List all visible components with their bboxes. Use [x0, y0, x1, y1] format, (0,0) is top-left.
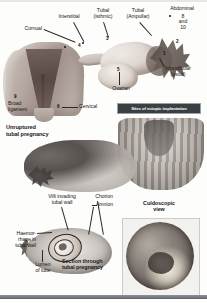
dot-abdominal — [169, 15, 171, 17]
label-villi-invading-tubal-wall: Villi invading tubal wall — [36, 194, 88, 206]
label-abdominal-numbers: 8 and 10 — [172, 14, 194, 30]
label-chorion: Chorion — [88, 194, 120, 200]
leader-ovarian — [119, 72, 120, 85]
dot-interstitial — [82, 42, 84, 44]
label-tubal-isthmic: Tubal (isthmic) — [86, 8, 120, 20]
sites-of-ectopic-implantation-banner: Sites of ectopic implantation — [117, 103, 201, 114]
heading-unruptured-tubal-pregnancy: Unruptured tubal pregnancy — [6, 124, 76, 137]
dot-cornual — [64, 46, 66, 48]
bottom-rule — [0, 295, 207, 299]
label-broad-ligament: Broad ligament — [8, 101, 48, 113]
unruptured-tubal-pregnancy-photo — [24, 140, 136, 192]
top-rule — [0, 0, 207, 2]
label-cornual: Cornual — [4, 26, 42, 32]
label-haemorrhage-tubal-wall: Haemor- rhage in tubal wall — [2, 231, 36, 249]
figure-page: Cornual Interstitial 4 Tubal (isthmic) 3… — [0, 0, 207, 303]
banner-label: Sites of ectopic implantation — [131, 106, 187, 111]
leader-cervical — [62, 107, 78, 108]
label-interstitial: Interstitial — [47, 14, 91, 20]
label-amnion: Amnion — [96, 202, 126, 208]
marker-6: 6 — [57, 105, 60, 110]
leader-villi — [61, 207, 68, 230]
marker-9: 9 — [14, 95, 17, 100]
label-cervical: Cervical — [79, 104, 115, 110]
label-abdominal: Abdominal — [160, 6, 204, 12]
leader-lumen — [42, 250, 43, 262]
label-ovarian: Ovarian — [104, 86, 138, 92]
marker-4: 4 — [78, 44, 81, 49]
marker-5: 5 — [117, 68, 120, 73]
marker-1: 1 — [163, 52, 166, 57]
culdoscopic-view-photo — [126, 222, 194, 290]
marker-3: 3 — [106, 37, 109, 42]
label-lumen-of-tube: Lumen of tube — [28, 262, 58, 274]
marker-2: 2 — [176, 40, 179, 45]
label-tubal-ampullar: Tubal (Ampullar) — [118, 8, 158, 20]
label-infundibular: Infundibular (ostial) — [154, 66, 202, 78]
caption-section-through-tubal-pregnancy: Section through tubal pregnancy — [62, 258, 120, 271]
caption-culdoscopic-view: Culdoscopic view — [128, 200, 190, 213]
leader-amnion-dash — [92, 205, 97, 206]
